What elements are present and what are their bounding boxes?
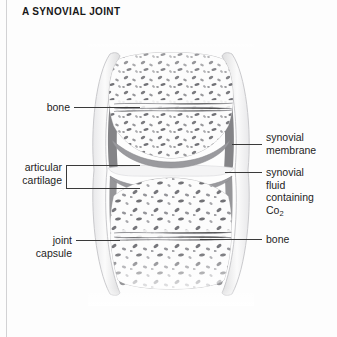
leader-cartilage-bracket-vertical <box>66 165 67 189</box>
label-joint-capsule-line2: capsule <box>0 247 72 260</box>
label-synovial-fluid-formula: Co2 <box>266 204 337 217</box>
leader-synovial-fluid <box>225 172 262 173</box>
leader-bone-upper <box>74 107 140 108</box>
label-synovial-fluid: synovial fluid containing Co2 <box>266 166 337 216</box>
formula-prefix: Co <box>266 204 279 216</box>
label-synovial-fluid-line3: containing <box>266 191 337 204</box>
label-articular-cartilage-line2: cartilage <box>0 174 62 187</box>
leader-synovial-membrane <box>232 144 262 145</box>
formula-subscript: 2 <box>279 209 283 218</box>
label-synovial-membrane-line1: synovial <box>266 131 336 144</box>
figure-title: A SYNOVIAL JOINT <box>22 6 120 17</box>
label-bone-lower: bone <box>266 233 326 246</box>
leader-joint-capsule <box>76 240 120 241</box>
label-synovial-membrane: synovial membrane <box>266 131 336 156</box>
upper-bone <box>106 48 238 168</box>
label-articular-cartilage-line1: articular <box>0 161 62 174</box>
label-synovial-fluid-line2: fluid <box>266 179 337 192</box>
leader-bone-lower <box>200 239 262 240</box>
leader-cartilage-lower <box>66 188 140 189</box>
figure-root: A SYNOVIAL JOINT <box>0 0 337 337</box>
label-articular-cartilage: articular cartilage <box>0 161 62 186</box>
label-bone-upper: bone <box>10 101 70 114</box>
leader-cartilage-upper <box>66 165 140 166</box>
label-joint-capsule-line1: joint <box>0 234 72 247</box>
synovial-joint-illustration <box>88 44 254 306</box>
label-joint-capsule: joint capsule <box>0 234 72 259</box>
label-synovial-membrane-line2: membrane <box>266 144 336 157</box>
label-synovial-fluid-line1: synovial <box>266 166 337 179</box>
label-bone-upper-line1: bone <box>47 101 70 113</box>
label-bone-lower-line1: bone <box>266 233 289 245</box>
